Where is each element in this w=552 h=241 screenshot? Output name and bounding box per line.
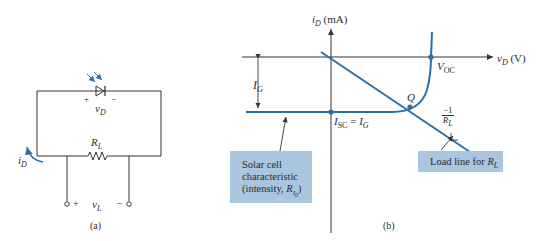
caption-a: (a) xyxy=(90,221,101,231)
isc-point xyxy=(328,109,333,114)
photodiode-icon xyxy=(96,86,106,96)
slope-label: −1 RL xyxy=(442,106,454,128)
solar-callout-line1: Solar cell xyxy=(242,151,312,171)
q-point xyxy=(407,104,412,109)
isc-label: ISC = IG xyxy=(334,116,369,130)
x-axis-label: vD (V) xyxy=(497,53,526,67)
y-axis-label: iD (mA) xyxy=(312,14,347,28)
vl-plus-sign: + xyxy=(73,199,79,209)
solar-callout-line2: characteristic xyxy=(242,171,312,183)
vd-plus-sign: + xyxy=(84,95,89,104)
load-line-callout: Load line for RL xyxy=(418,151,503,172)
terminal-plus xyxy=(65,202,69,206)
light-rays-icon xyxy=(87,72,102,82)
solar-cell-callout: Solar cell characteristic (intensity, RI… xyxy=(230,151,312,203)
q-label: Q xyxy=(407,92,415,103)
ig-label: IG xyxy=(253,79,263,94)
current-arrow-icon xyxy=(27,147,43,162)
resistor-icon xyxy=(67,152,129,160)
vd-minus-sign: − xyxy=(111,95,116,104)
vd-label: vD xyxy=(95,103,106,117)
terminal-minus xyxy=(127,202,131,206)
solar-callout-leader xyxy=(280,117,286,151)
vl-minus-sign: − xyxy=(117,199,123,209)
load-callout-leader xyxy=(441,136,453,150)
voc-point xyxy=(428,54,433,59)
caption-b: (b) xyxy=(383,221,395,231)
rl-label: RL xyxy=(91,137,102,151)
solar-callout-line3: (intensity, RI0) xyxy=(242,183,312,201)
id-label: iD xyxy=(18,155,27,169)
solar-cell-curve xyxy=(246,32,432,112)
vl-label: vL xyxy=(92,199,101,213)
diagram-canvas xyxy=(0,0,552,241)
voc-label: VOC xyxy=(437,61,455,75)
